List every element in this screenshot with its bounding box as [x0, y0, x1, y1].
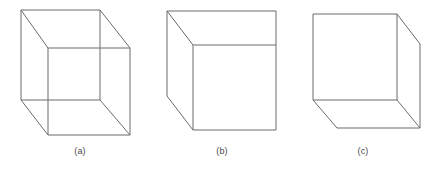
cube-panel-b [167, 11, 276, 130]
cube-rendering-figure: (a) (b) (c) [0, 0, 441, 169]
panel-b-front-face [193, 45, 276, 130]
cube-panel-c [313, 14, 420, 128]
panel-b-caption: (b) [216, 146, 227, 156]
panel-a-caption: (a) [74, 146, 85, 156]
panel-c-front-face [313, 14, 397, 100]
panel-c-caption: (c) [358, 146, 369, 156]
cube-figure-canvas [0, 0, 441, 169]
